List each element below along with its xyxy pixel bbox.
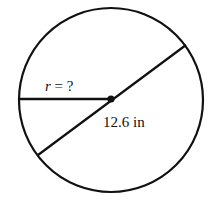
diameter-label: 12.6 in <box>103 114 145 130</box>
radius-label: r = ? <box>45 78 74 94</box>
circle-diagram: r = ? 12.6 in <box>0 0 212 204</box>
center-point <box>107 95 114 102</box>
